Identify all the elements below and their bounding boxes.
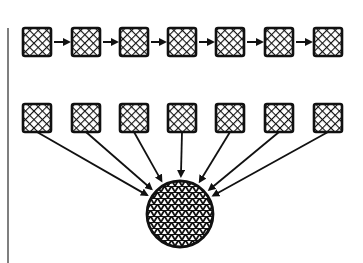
source-node-box [120, 104, 148, 132]
source-node-box [168, 104, 196, 132]
chain-node-box [265, 28, 293, 56]
chain-node-box [120, 28, 148, 56]
source-node-box [216, 104, 244, 132]
source-node-box [265, 104, 293, 132]
aggregate-node [147, 181, 213, 247]
fan-in-arrow [209, 132, 279, 190]
source-node-box [23, 104, 51, 132]
fan-in-arrow [134, 132, 161, 181]
source-node-box [314, 104, 342, 132]
chain-node-box [168, 28, 196, 56]
source-node-box [72, 104, 100, 132]
chain-node-box [314, 28, 342, 56]
fan-in-arrow [213, 132, 328, 196]
fan-in-arrow [86, 132, 151, 189]
fan-in-arrow [200, 132, 230, 182]
diagram-canvas [0, 0, 363, 263]
sequential-chain [23, 28, 342, 56]
chain-node-box [23, 28, 51, 56]
chain-node-box [216, 28, 244, 56]
chain-node-box [72, 28, 100, 56]
fan-in-arrow [181, 132, 182, 176]
aggregate-circle [147, 181, 213, 247]
fan-in-arrow [37, 132, 147, 195]
